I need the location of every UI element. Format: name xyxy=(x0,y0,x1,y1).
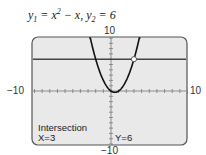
y-readout: Y=6 xyxy=(115,133,132,143)
calculator-screen xyxy=(0,0,206,155)
x-readout: X=3 xyxy=(38,133,55,143)
